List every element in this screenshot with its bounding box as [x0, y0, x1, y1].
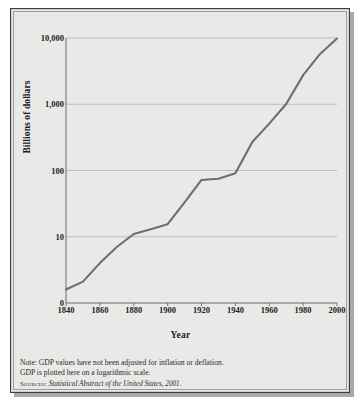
figure-notes: Note: GDP values have not been adjusted … — [20, 358, 320, 389]
gdp-data-line — [66, 39, 337, 290]
x-tick-label: 1960 — [261, 305, 278, 315]
chart-plot-svg — [0, 0, 361, 411]
x-tick-label: 1860 — [91, 305, 108, 315]
note-line-1: Note: GDP values have not been adjusted … — [20, 358, 320, 368]
x-tick-label: 1940 — [227, 305, 244, 315]
x-axis-title: Year — [0, 330, 361, 340]
x-tick-label: 1840 — [58, 305, 75, 315]
x-axis-tick-labels: 184018601880190019201940196019802000 — [0, 305, 361, 319]
x-tick-label: 1900 — [159, 305, 176, 315]
source-prefix: Sources: — [20, 380, 47, 387]
source-title: Statistical Abstract of the United State… — [49, 380, 182, 388]
x-tick-label: 2000 — [329, 305, 346, 315]
source-line: Sources: Statistical Abstract of the Uni… — [20, 379, 320, 389]
chart-area: Billions of dollars 10,0001,000100100 18… — [0, 0, 361, 411]
figure-container: Billions of dollars 10,0001,000100100 18… — [0, 0, 361, 411]
x-tick-label: 1980 — [295, 305, 312, 315]
x-tick-label: 1920 — [193, 305, 210, 315]
note-line-2: GDP is plotted here on a logarithmic sca… — [20, 368, 320, 378]
x-tick-label: 1880 — [125, 305, 142, 315]
